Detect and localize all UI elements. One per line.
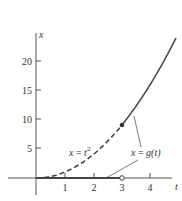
chart-area: x t 20 15 10 5 1 2 3 4 x = t2 x = g(t): [0, 0, 182, 201]
leader-line-upper: [134, 116, 141, 147]
y-axis-label: x: [38, 29, 44, 40]
x-ticks: 1 2 3 4: [63, 173, 153, 193]
filled-dot: [120, 123, 125, 128]
open-dot: [120, 176, 125, 181]
y-ticks: 20 15 10 5: [22, 56, 41, 154]
y-tick-label-10: 10: [22, 114, 32, 125]
y-tick-label-20: 20: [22, 56, 32, 67]
label-g-of-t: x = g(t): [130, 147, 161, 159]
label-t-squared: x = t2: [68, 145, 91, 158]
x-tick-label-3: 3: [120, 182, 125, 193]
y-tick-label-5: 5: [27, 143, 32, 154]
x-tick-label-1: 1: [63, 182, 68, 193]
x-tick-label-4: 4: [148, 182, 153, 193]
x-axis-label: t: [175, 181, 178, 192]
solid-curve-g: [122, 38, 176, 125]
x-tick-label-2: 2: [92, 182, 97, 193]
y-tick-label-15: 15: [22, 85, 32, 96]
